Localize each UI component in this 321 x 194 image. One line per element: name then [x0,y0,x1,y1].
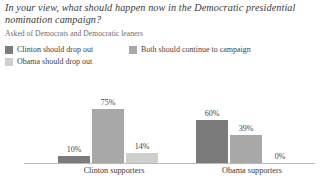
chart-container: In your view, what should happen now in … [0,0,321,194]
legend-row-2: Obama should drop out [5,57,305,69]
bar [230,135,262,163]
legend-label: Obama should drop out [17,57,92,66]
bar-slot: 39% [230,78,262,163]
axis-baseline [24,163,315,164]
bar-slot: 0% [264,78,296,163]
legend-swatch-icon [5,46,13,54]
bar-group-obama-supporters: 60% 39% 0% [196,78,308,163]
bar-value-label: 10% [58,145,90,154]
legend-item-both-continue: Both should continue to campaign [129,45,251,54]
bar-value-label: 75% [92,98,124,107]
bar [58,156,90,163]
chart-title: In your view, what should happen now in … [5,2,300,26]
chart-subtitle: Asked of Democrats and Democratic leaner… [5,29,143,38]
x-axis-label-clinton-supporters: Clinton supporters [44,166,184,175]
legend-label: Both should continue to campaign [141,45,251,54]
bar-value-label: 14% [126,142,158,151]
bar-value-label: 60% [196,109,228,118]
chart-legend: Clinton should drop out Both should cont… [5,45,305,69]
bar-slot: 75% [92,78,124,163]
bar-value-label: 0% [264,152,296,161]
bar [92,109,124,163]
bar-group-clinton-supporters: 10% 75% 14% [58,78,170,163]
x-axis-label-obama-supporters: Obama supporters [182,166,321,175]
bar [126,153,158,163]
legend-swatch-icon [129,46,137,54]
bar-value-label: 39% [230,124,262,133]
plot-area: 10% 75% 14% 60% 39% 0% [0,78,321,164]
bar-slot: 60% [196,78,228,163]
bar-slot: 10% [58,78,90,163]
legend-row-1: Clinton should drop out Both should cont… [5,45,305,57]
bar-slot: 14% [126,78,158,163]
x-axis-labels: Clinton supporters Obama supporters [0,166,321,180]
legend-item-obama-drop-out: Obama should drop out [5,57,92,66]
legend-item-clinton-drop-out: Clinton should drop out [5,45,93,54]
bar [196,120,228,163]
legend-label: Clinton should drop out [17,45,93,54]
legend-swatch-icon [5,58,13,66]
